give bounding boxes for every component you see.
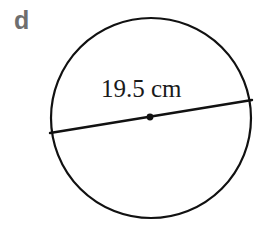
center-point-dot	[147, 114, 154, 121]
figure-container: d 19.5 cm	[0, 0, 274, 231]
circle-diagram	[0, 0, 274, 231]
part-label: d	[14, 8, 29, 33]
diameter-measurement-label: 19.5 cm	[101, 76, 182, 101]
